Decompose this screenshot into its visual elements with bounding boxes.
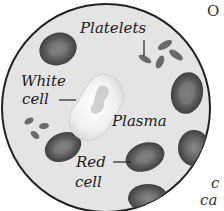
edge-text-bottom-right-2: ca — [200, 193, 217, 208]
label-platelets: Platelets — [80, 21, 146, 36]
label-red-cell-line2: cell — [75, 175, 102, 190]
edge-text-bottom-right-1: c — [211, 176, 219, 191]
label-white-cell-line2: cell — [22, 92, 49, 107]
label-plasma: Plasma — [112, 114, 167, 129]
blood-diagram: Platelets White cell Plasma Red cell O c… — [0, 0, 224, 211]
edge-text-top-right: O — [207, 4, 219, 19]
red-cell-icon — [178, 130, 210, 166]
label-red-cell-line1: Red — [76, 155, 106, 170]
red-cell-icon — [128, 184, 168, 211]
label-white-cell-line1: White — [21, 74, 66, 89]
